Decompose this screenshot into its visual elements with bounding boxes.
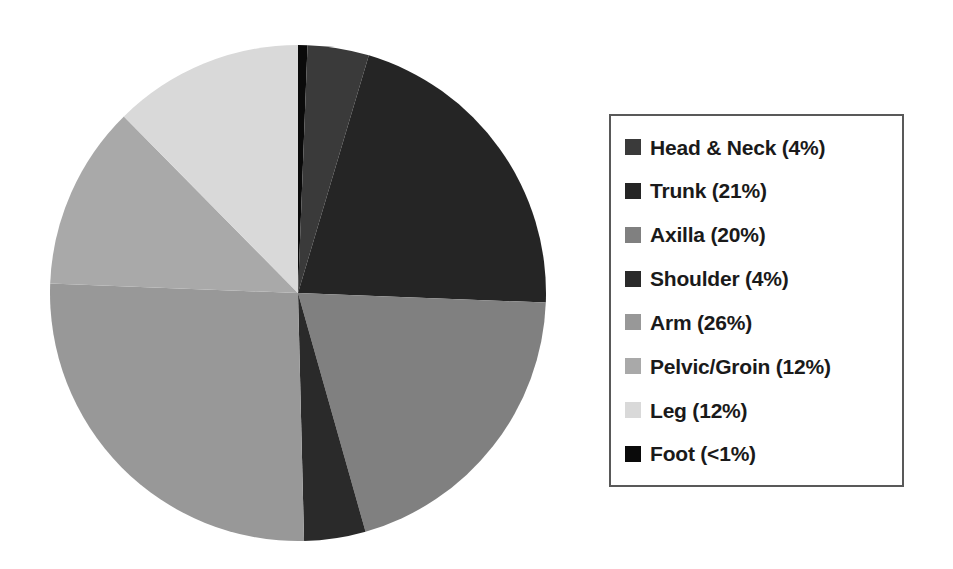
pie-chart-figure: Head & Neck (4%) Trunk (21%) Axilla (20%…	[0, 0, 953, 569]
square-swatch-icon	[625, 314, 641, 330]
square-swatch-icon	[625, 446, 641, 462]
legend-item-label: Leg (12%)	[650, 400, 747, 421]
legend-item-label: Arm (26%)	[650, 312, 752, 333]
legend-item-label: Axilla (20%)	[650, 224, 765, 245]
square-swatch-icon	[625, 358, 641, 374]
legend-item-shoulder[interactable]: Shoulder (4%)	[625, 258, 902, 300]
legend-item-label: Shoulder (4%)	[650, 268, 789, 289]
square-swatch-icon	[625, 183, 641, 199]
legend-item-arm[interactable]: Arm (26%)	[625, 301, 902, 343]
legend-item-label: Trunk (21%)	[650, 180, 767, 201]
legend-item-label: Pelvic/Groin (12%)	[650, 356, 831, 377]
pie-slice[interactable]	[50, 283, 304, 541]
legend-item-label: Foot (<1%)	[650, 443, 756, 464]
legend-item-pelvic-groin[interactable]: Pelvic/Groin (12%)	[625, 345, 902, 387]
legend-item-axilla[interactable]: Axilla (20%)	[625, 214, 902, 256]
chart-legend: Head & Neck (4%) Trunk (21%) Axilla (20%…	[609, 114, 904, 487]
legend-item-trunk[interactable]: Trunk (21%)	[625, 170, 902, 212]
square-swatch-icon	[625, 402, 641, 418]
square-swatch-icon	[625, 139, 641, 155]
pie-chart-plot-area	[49, 44, 547, 542]
legend-item-label: Head & Neck (4%)	[650, 137, 825, 158]
pie-chart-svg	[49, 44, 547, 542]
square-swatch-icon	[625, 271, 641, 287]
legend-item-leg[interactable]: Leg (12%)	[625, 389, 902, 431]
legend-item-head-neck[interactable]: Head & Neck (4%)	[625, 126, 902, 168]
legend-item-foot[interactable]: Foot (<1%)	[625, 433, 902, 475]
square-swatch-icon	[625, 227, 641, 243]
